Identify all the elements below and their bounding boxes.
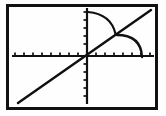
graph-plot-area bbox=[0, 0, 166, 116]
calculator-graph-screenshot bbox=[0, 0, 166, 116]
